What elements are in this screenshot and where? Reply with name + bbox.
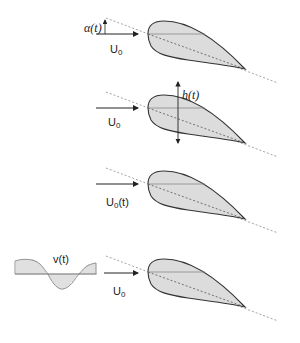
panel-pitching: [96, 18, 278, 83]
velocity-symbol: U: [106, 196, 114, 208]
airfoil-shape: [148, 259, 245, 307]
freestream-velocity-label: U0: [113, 286, 125, 299]
angle-of-attack-label: α(t): [84, 22, 102, 34]
velocity-subscript: 0: [121, 290, 125, 299]
airfoil-shape: [148, 95, 245, 143]
velocity-symbol: U: [113, 285, 121, 297]
airfoil-diagram: [0, 0, 300, 343]
plunge-displacement-label: h(t): [182, 89, 199, 101]
airfoil-shape: [148, 21, 245, 69]
time-varying-velocity-label: U0(t): [106, 197, 129, 210]
panel-gust: [15, 256, 278, 321]
freestream-velocity-label: U0: [108, 117, 120, 130]
velocity-symbol: U: [108, 116, 116, 128]
airfoil-shape: [148, 171, 245, 219]
velocity-subscript: 0: [116, 121, 120, 130]
gust-velocity-label: v(t): [53, 254, 69, 265]
velocity-time-suffix: (t): [118, 196, 128, 208]
freestream-velocity-label: U0: [110, 44, 122, 57]
velocity-subscript: 0: [118, 48, 122, 57]
velocity-symbol: U: [110, 43, 118, 55]
